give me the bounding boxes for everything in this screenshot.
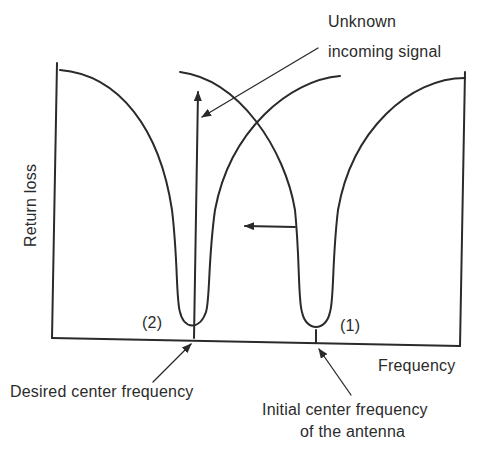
marker-2-label: (2) xyxy=(142,313,162,332)
curve-2-desired xyxy=(60,70,340,326)
initial-center-label-1: Initial center frequency xyxy=(262,400,428,419)
x-axis xyxy=(52,338,460,346)
unknown-signal-label-1: Unknown xyxy=(328,12,396,31)
unknown-signal-label-2: incoming signal xyxy=(328,42,441,61)
initial-center-pointer xyxy=(319,349,351,395)
y-axis xyxy=(52,63,57,338)
y-axis-label: Return loss xyxy=(22,164,40,247)
x-axis-label: Frequency xyxy=(378,356,455,375)
unknown-signal-pointer xyxy=(202,48,318,117)
desired-center-pointer xyxy=(153,344,191,382)
right-border xyxy=(460,72,465,346)
marker-1-label: (1) xyxy=(340,316,360,335)
curve-1-initial xyxy=(180,72,465,327)
desired-center-label: Desired center frequency xyxy=(10,382,194,401)
shift-left-arrow xyxy=(245,226,295,227)
incoming-signal-arrow xyxy=(194,92,198,338)
initial-center-label-2: of the antenna xyxy=(300,422,405,441)
